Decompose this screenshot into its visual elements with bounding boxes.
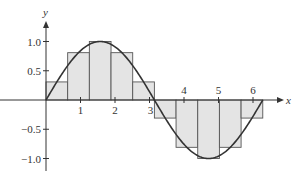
riemann-rectangle	[89, 42, 111, 101]
x-tick-label: 4	[181, 84, 187, 96]
riemann-rectangle	[111, 53, 133, 100]
riemann-rectangle	[154, 100, 176, 118]
riemann-rectangle	[176, 100, 198, 147]
y-tick-label: 0.5	[27, 65, 41, 77]
x-axis-label: x	[285, 94, 291, 106]
x-tick-label: 2	[112, 104, 118, 116]
y-axis-label: y	[42, 6, 48, 18]
y-axis-arrow-icon	[43, 21, 49, 28]
x-tick-label: 6	[250, 84, 256, 96]
y-tick-label: −0.5	[21, 123, 41, 135]
x-tick-label: 3	[148, 104, 154, 116]
riemann-rectangle	[133, 82, 155, 100]
x-axis-arrow-icon	[277, 97, 284, 103]
riemann-rectangle	[46, 82, 68, 100]
x-tick-label: 1	[78, 104, 84, 116]
y-tick-label: 1.0	[27, 36, 41, 48]
riemann-rectangle	[241, 100, 263, 118]
riemann-rectangle	[68, 53, 90, 100]
x-tick-label: 5	[216, 84, 222, 96]
riemann-rectangle	[198, 100, 220, 159]
y-tick-label: −1.0	[21, 153, 41, 165]
riemann-sum-chart: 1234561.00.5−0.5−1.0 x y	[0, 0, 302, 178]
riemann-rectangle	[219, 100, 241, 147]
